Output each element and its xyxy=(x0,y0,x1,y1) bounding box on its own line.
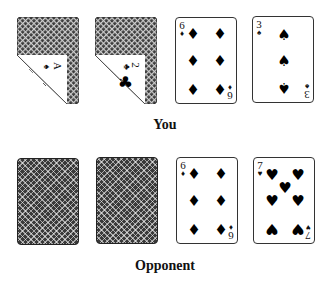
you-label: You xyxy=(0,117,330,133)
diamond-pip-icon: ♦ xyxy=(214,194,227,209)
card-back-pattern-icon xyxy=(17,17,79,104)
card-index-bottom: 6♦ xyxy=(226,83,234,101)
card-index-bottom: 7♥ xyxy=(304,223,312,241)
you-card-3[interactable]: 6♦ ♦ ♦ ♦ ♦ ♦ ♦ 6♦ xyxy=(175,17,237,104)
spade-icon: ♠ xyxy=(303,82,311,90)
card-index-top: 6♦ xyxy=(178,20,186,38)
diamond-pip-icon: ♦ xyxy=(213,54,226,69)
diamond-icon: ♦ xyxy=(227,223,235,231)
opponent-label: Opponent xyxy=(0,258,330,274)
spade-icon: ♠ xyxy=(42,65,52,70)
diamond-pip-icon: ♦ xyxy=(214,221,227,236)
diamond-pip-icon: ♦ xyxy=(186,54,199,69)
opponent-card-1-facedown[interactable] xyxy=(17,158,79,245)
card-index-top: 7♥ xyxy=(256,160,264,178)
heart-pip-icon: ♥ xyxy=(265,168,278,183)
you-card-1-peeked[interactable]: A ♠ xyxy=(17,17,79,104)
card-index-bottom: 3♠ xyxy=(303,82,311,100)
diamond-pip-icon: ♦ xyxy=(187,221,200,236)
heart-pip-icon: ♥ xyxy=(291,221,304,236)
card-index-top: 6♦ xyxy=(179,160,187,178)
you-card-4[interactable]: 3♠ ♠ ♠ ♠ 3♠ xyxy=(252,16,314,103)
opponent-card-4[interactable]: 7♥ ♥ ♥ ♥ ♥ ♥ ♥ ♥ 7♥ xyxy=(253,157,315,244)
spade-pip-icon: ♠ xyxy=(277,80,290,95)
card-rank: A xyxy=(53,62,63,70)
heart-icon: ♥ xyxy=(304,223,312,231)
diamond-icon: ♦ xyxy=(178,30,186,38)
opponent-card-3[interactable]: 6♦ ♦ ♦ ♦ ♦ ♦ ♦ 6♦ xyxy=(176,157,238,244)
diamond-pip-icon: ♦ xyxy=(213,81,226,96)
spade-pip-icon: ♠ xyxy=(277,54,290,69)
card-index-bottom: 6♦ xyxy=(227,223,235,241)
you-card-2-peeked[interactable]: 2 ♣ ♣ xyxy=(95,17,157,104)
diamond-pip-icon: ♦ xyxy=(214,167,227,182)
card-index-top: 3♠ xyxy=(255,19,263,37)
diamond-pip-icon: ♦ xyxy=(213,27,226,42)
diamond-pip-icon: ♦ xyxy=(187,194,200,209)
opponent-card-2-facedown[interactable] xyxy=(96,157,158,244)
diamond-pip-icon: ♦ xyxy=(187,167,200,182)
spade-icon: ♠ xyxy=(255,29,263,37)
heart-pip-icon: ♥ xyxy=(291,194,304,209)
club-icon: ♣ xyxy=(122,64,132,70)
heart-pip-icon: ♥ xyxy=(265,221,278,236)
diamond-icon: ♦ xyxy=(226,83,234,91)
heart-pip-icon: ♥ xyxy=(278,181,291,196)
spade-pip-icon: ♠ xyxy=(277,28,290,43)
heart-pip-icon: ♥ xyxy=(291,168,304,183)
diamond-pip-icon: ♦ xyxy=(186,27,199,42)
heart-icon: ♥ xyxy=(256,170,264,178)
diamond-icon: ♦ xyxy=(179,170,187,178)
card-rank: 2 xyxy=(131,62,141,68)
heart-pip-icon: ♥ xyxy=(265,194,278,209)
diamond-pip-icon: ♦ xyxy=(186,81,199,96)
